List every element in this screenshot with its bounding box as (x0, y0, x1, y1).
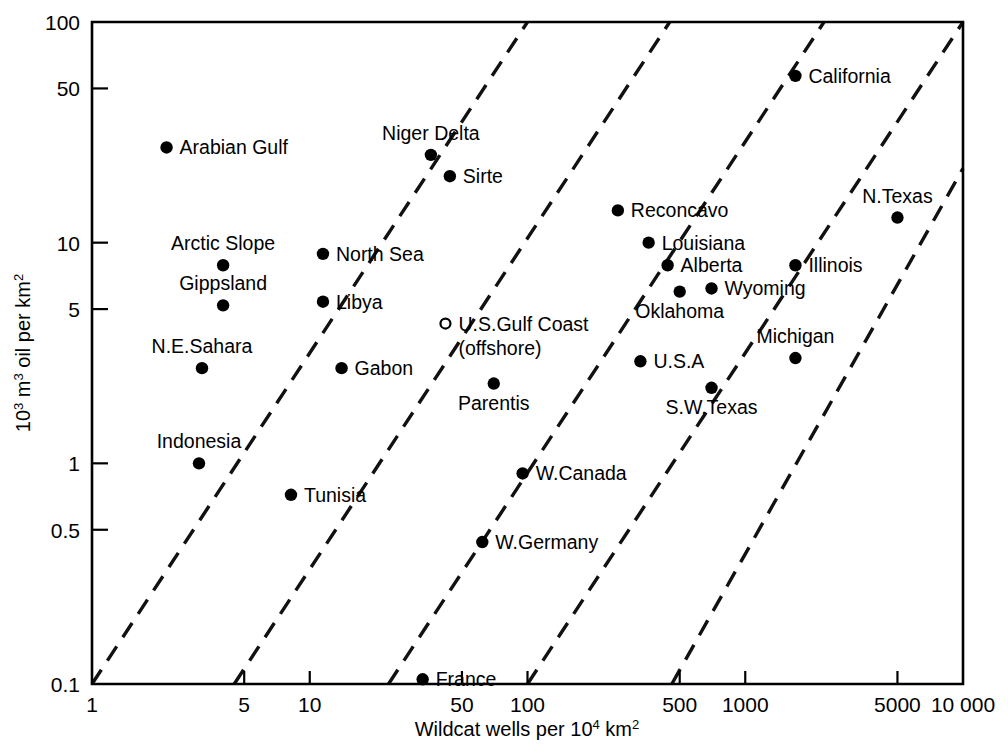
data-point-label: Louisiana (662, 232, 746, 254)
x-tick-label: 5 (238, 693, 250, 716)
data-point-label: France (436, 668, 497, 690)
data-point: S.W.Texas (665, 382, 757, 418)
y-tick-label: 0.1 (51, 673, 80, 696)
data-point: Alberta (661, 254, 742, 276)
data-point: Sirte (444, 165, 503, 187)
data-point-label: Michigan (756, 325, 834, 347)
oil-yield-scatter-figure: 1510501005001000500010 0000.10.515105010… (0, 0, 1008, 756)
y-tick-label: 5 (68, 298, 80, 321)
x-tick-label: 5000 (874, 693, 921, 716)
data-point-label: Libya (336, 291, 383, 313)
data-point-label: North Sea (336, 243, 424, 265)
x-tick-label: 50 (450, 693, 473, 716)
x-axis-title: Wildcat wells per 104 km2 (415, 717, 640, 741)
y-tick-label: 50 (57, 77, 80, 100)
x-tick-label: 1000 (722, 693, 769, 716)
filled-circle-marker (416, 673, 428, 685)
data-point-label: N.Texas (862, 185, 933, 207)
data-point-label: Parentis (458, 392, 530, 414)
data-point: Illinois (789, 254, 863, 276)
data-point: Arabian Gulf (160, 136, 288, 158)
filled-circle-marker (196, 362, 208, 374)
data-point: Parentis (458, 377, 530, 413)
filled-circle-marker (476, 536, 488, 548)
y-axis-title: 103 m3 oil per km2 (11, 274, 35, 432)
open-circle-marker (440, 319, 450, 329)
data-point: U.S.Gulf Coast(offshore) (440, 313, 589, 359)
filled-circle-marker (705, 282, 717, 294)
filled-circle-marker (789, 70, 801, 82)
y-tick-label: 100 (45, 11, 80, 34)
data-point: Michigan (756, 325, 834, 364)
data-point-label: Illinois (808, 254, 862, 276)
data-point-label: U.S.Gulf Coast (458, 313, 589, 335)
data-point: California (789, 65, 891, 87)
filled-circle-marker (789, 259, 801, 271)
data-point-label: Alberta (681, 254, 743, 276)
data-points-layer: Arabian GulfArctic SlopeGippslandN.E.Sah… (152, 65, 933, 690)
data-point: Arctic Slope (171, 232, 275, 271)
x-tick-label: 10 (298, 693, 321, 716)
filled-circle-marker (612, 204, 624, 216)
data-point-label: U.S.A (653, 350, 704, 372)
data-point: Wyoming (705, 277, 805, 299)
x-tick-label: 10 000 (931, 693, 995, 716)
data-point: Indonesia (157, 430, 242, 469)
filled-circle-marker (425, 149, 437, 161)
y-tick-label: 10 (57, 232, 80, 255)
data-point-label: Oklahoma (635, 300, 724, 322)
data-point-label: Arctic Slope (171, 232, 275, 254)
data-point: Tunisia (285, 484, 366, 506)
filled-circle-marker (516, 467, 528, 479)
y-tick-label: 1 (68, 452, 80, 475)
filled-circle-marker (335, 362, 347, 374)
data-point: N.Texas (862, 185, 933, 224)
filled-circle-marker (317, 248, 329, 260)
filled-circle-marker (217, 299, 229, 311)
filled-circle-marker (217, 259, 229, 271)
data-point-label: W.Canada (536, 462, 627, 484)
iso-yield-line-4 (528, 22, 964, 684)
data-point: Louisiana (642, 232, 745, 254)
data-point-label: Tunisia (304, 484, 366, 506)
filled-circle-marker (444, 170, 456, 182)
data-point-label: W.Germany (495, 531, 598, 553)
data-point-sublabel: (offshore) (458, 337, 541, 359)
data-point: N.E.Sahara (152, 335, 253, 374)
filled-circle-marker (317, 296, 329, 308)
filled-circle-marker (634, 355, 646, 367)
data-point: North Sea (317, 243, 424, 265)
filled-circle-marker (661, 259, 673, 271)
filled-circle-marker (488, 377, 500, 389)
filled-circle-marker (674, 285, 686, 297)
data-point-label: Niger Delta (382, 122, 480, 144)
y-tick-label: 0.5 (51, 519, 80, 542)
x-tick-label: 100 (510, 693, 545, 716)
data-point-label: Wyoming (725, 277, 806, 299)
data-point-label: S.W.Texas (665, 396, 757, 418)
data-point-label: Arabian Gulf (180, 136, 289, 158)
x-tick-label: 500 (662, 693, 697, 716)
data-point-label: Gippsland (179, 272, 267, 294)
filled-circle-marker (160, 141, 172, 153)
scatter-plot-canvas: 1510501005001000500010 0000.10.515105010… (0, 0, 1008, 756)
data-point: France (416, 668, 496, 690)
data-point-label: N.E.Sahara (152, 335, 253, 357)
data-point-label: Sirte (463, 165, 503, 187)
data-point: Niger Delta (382, 122, 480, 161)
data-point-label: California (808, 65, 891, 87)
data-point-label: Reconcavo (631, 199, 729, 221)
filled-circle-marker (789, 352, 801, 364)
filled-circle-marker (193, 457, 205, 469)
data-point-label: Indonesia (157, 430, 242, 452)
data-point: Libya (317, 291, 383, 313)
data-point: W.Germany (476, 531, 598, 553)
data-point-label: Gabon (355, 357, 414, 379)
data-point: U.S.A (634, 350, 704, 372)
x-tick-label: 1 (86, 693, 98, 716)
filled-circle-marker (705, 382, 717, 394)
data-point: Reconcavo (612, 199, 729, 221)
filled-circle-marker (891, 211, 903, 223)
data-point: Gabon (335, 357, 413, 379)
filled-circle-marker (642, 236, 654, 248)
